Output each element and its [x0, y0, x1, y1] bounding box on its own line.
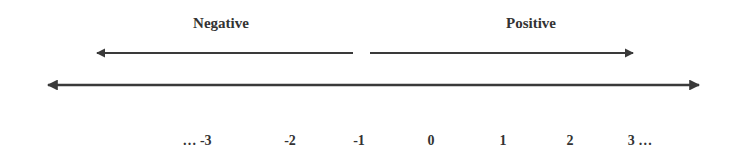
tick-label-1: 1: [500, 133, 507, 149]
positive-heading: Positive: [506, 15, 556, 32]
number-line-graphic: [0, 0, 734, 154]
tick-label-neg3: … -3: [182, 133, 211, 149]
tick-label-0: 0: [428, 133, 435, 149]
tick-label-neg2: -2: [284, 133, 296, 149]
tick-label-3: 3 …: [628, 133, 653, 149]
negative-heading: Negative: [193, 15, 249, 32]
tick-label-neg1: -1: [353, 133, 365, 149]
tick-label-2: 2: [567, 133, 574, 149]
